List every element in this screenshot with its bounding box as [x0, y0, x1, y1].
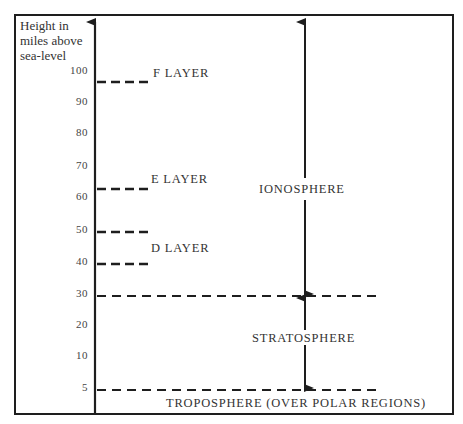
- tick-label: 60: [58, 190, 88, 202]
- e-layer-label: E LAYER: [151, 172, 208, 187]
- tick-label: 30: [58, 287, 88, 299]
- tick-label: 100: [58, 64, 88, 76]
- troposphere-label: TROPOSPHERE (OVER POLAR REGIONS): [166, 396, 426, 411]
- tick-label: 5: [58, 381, 88, 393]
- tick-label: 20: [58, 318, 88, 330]
- tick-label: 70: [58, 159, 88, 171]
- f-layer-label: F LAYER: [153, 66, 209, 81]
- tick-label: 90: [58, 95, 88, 107]
- tick-label: 10: [58, 349, 88, 361]
- axis-title: Height in miles above sea-level: [20, 18, 82, 63]
- stratosphere-label: STRATOSPHERE: [252, 331, 355, 346]
- axis-title-line: miles above: [20, 33, 82, 48]
- d-layer-label: D LAYER: [151, 241, 209, 256]
- tick-label: 40: [58, 255, 88, 267]
- tick-label: 80: [58, 126, 88, 138]
- tick-label: 50: [58, 223, 88, 235]
- axis-title-line: sea-level: [20, 48, 82, 63]
- ionosphere-label: IONOSPHERE: [259, 182, 345, 197]
- axis-title-line: Height in: [20, 18, 82, 33]
